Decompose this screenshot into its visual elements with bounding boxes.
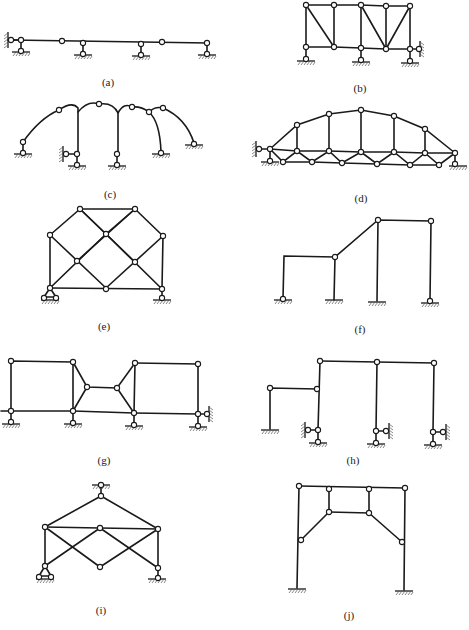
panel-i: (i) — [36, 482, 166, 617]
structures-diagram: (a) (b) — [0, 0, 469, 630]
panel-label-j: (j) — [344, 609, 355, 622]
panel-label-d: (d) — [355, 192, 368, 205]
panel-h: (h) — [261, 358, 450, 467]
panel-label-e: (e) — [98, 320, 111, 333]
panel-label-f: (f) — [355, 323, 366, 336]
panel-g: (g) — [1, 358, 213, 467]
panel-j: (j) — [288, 483, 413, 622]
panel-d: (d) — [252, 107, 467, 205]
panel-label-b: (b) — [354, 82, 367, 95]
panel-label-i: (i) — [96, 604, 107, 617]
panel-c: (c) — [14, 101, 203, 201]
panel-label-a: (a) — [102, 76, 115, 89]
panel-label-g: (g) — [98, 454, 111, 467]
panel-b: (b) — [297, 2, 424, 95]
panel-f: (f) — [274, 217, 439, 336]
panel-label-h: (h) — [347, 454, 360, 467]
panel-a: (a) — [4, 32, 216, 89]
panel-e: (e) — [41, 206, 171, 333]
panel-label-c: (c) — [104, 188, 117, 201]
